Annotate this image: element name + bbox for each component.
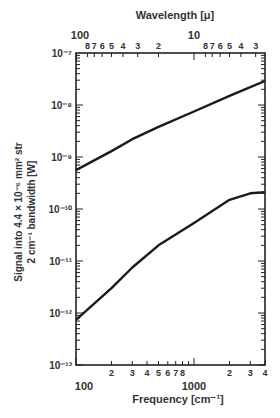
x2-tick-label: 2 [156,41,161,51]
x2-tick-label: 6 [218,41,223,51]
axis-ticks [76,53,265,365]
x2-axis-title: Wavelength [μ] [136,9,215,21]
y-tick-label: 10⁻¹⁰ [49,204,72,215]
x-major-tick-label: 100 [75,380,93,392]
y-axis-title-line1: Signal into 4.4 × 10⁻⁶ mm² str [13,142,24,281]
x2-tick-label: 100 [71,29,89,41]
x2-tick-label: 3 [135,41,140,51]
x-minor-tick-label: 8 [180,368,185,378]
curve-lower [76,192,265,320]
x-minor-tick-label: 6 [165,368,170,378]
x-minor-tick-label: 4 [145,368,150,378]
plot-frame [76,53,265,365]
y-tick-label: 10⁻¹³ [49,360,72,371]
curve-upper [76,81,265,170]
y-tick-label: 10⁻¹² [49,308,72,319]
x2-tick-label: 7 [210,41,215,51]
y-tick-label: 10⁻⁹ [51,152,72,163]
x2-tick-label: 4 [238,41,243,51]
y-tick-label: 10⁻⁷ [52,48,72,59]
x2-tick-label: 8 [203,41,208,51]
data-curves [76,81,265,320]
x-axis-title: Frequency [cm⁻¹] [132,393,224,405]
log-log-chart: 1001000234567823410087654321087654310⁻⁷1… [0,0,280,418]
y-axis-title-line2: 2 cm⁻¹ bandwidth [W] [26,161,37,264]
x-minor-tick-label: 2 [227,368,232,378]
x2-tick-label: 3 [253,41,258,51]
x2-tick-label: 8 [85,41,90,51]
x-minor-tick-label: 2 [109,368,114,378]
x-minor-tick-label: 3 [248,368,253,378]
y-tick-label: 10⁻⁸ [51,100,72,111]
x-minor-tick-label: 4 [262,368,267,378]
x2-tick-label: 10 [188,29,200,41]
x2-tick-label: 7 [92,41,97,51]
x-major-tick-label: 1000 [182,380,206,392]
y-tick-label: 10⁻¹¹ [49,256,72,267]
x2-tick-label: 4 [120,41,125,51]
x2-tick-label: 6 [100,41,105,51]
x-minor-tick-label: 7 [173,368,178,378]
x-minor-tick-label: 3 [130,368,135,378]
x2-tick-label: 5 [109,41,114,51]
x2-tick-label: 5 [227,41,232,51]
axis-labels: 1001000234567823410087654321087654310⁻⁷1… [49,29,268,392]
x-minor-tick-label: 5 [156,368,161,378]
